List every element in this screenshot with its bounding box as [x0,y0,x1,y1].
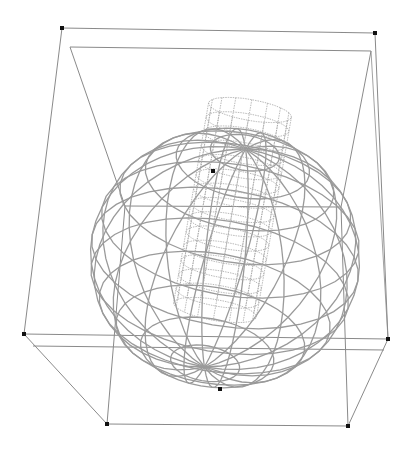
vertex-handle[interactable] [218,387,222,391]
box-edge-bottom-right [348,339,388,426]
3d-viewport[interactable] [0,0,410,453]
box-edge-inner-right [341,51,371,207]
box-edge-bottom-left [24,334,107,424]
vertex-handle[interactable] [60,26,64,30]
sphere-parallel [92,187,358,329]
vertex-handle[interactable] [346,424,350,428]
box-edge-right-inner [371,51,388,339]
vertex-handle[interactable] [105,422,109,426]
vertex-handle[interactable] [22,332,26,336]
vertex-handle[interactable] [373,31,377,35]
box-edge-left [24,28,62,334]
vertex-handle[interactable] [386,337,390,341]
box-edge-bottom [107,424,348,426]
box-edge-top-inner [70,47,371,51]
vertex-handle[interactable] [211,169,215,173]
box-edge-right [375,33,388,339]
wireframe-scene [0,0,410,453]
box-edge-mid [24,334,388,339]
box-edge-top [62,28,375,33]
sphere-meridian [91,147,246,367]
